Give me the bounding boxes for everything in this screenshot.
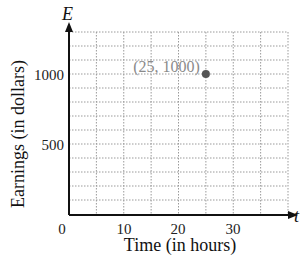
chart-canvas: E t 1000 500 0 10 20 30 Time (in hours) … (0, 0, 302, 255)
x-tick-0: 0 (58, 221, 66, 237)
y-tick-500: 500 (42, 137, 65, 153)
y-axis-title: Earnings (in dollars) (8, 60, 29, 208)
data-point-label: (25, 1000) (133, 58, 200, 76)
y-variable-label: E (61, 4, 73, 24)
x-variable-label: t (294, 206, 300, 226)
y-tick-1000: 1000 (34, 67, 64, 83)
x-axis-title: Time (in hours) (124, 235, 236, 255)
data-point (202, 70, 210, 78)
